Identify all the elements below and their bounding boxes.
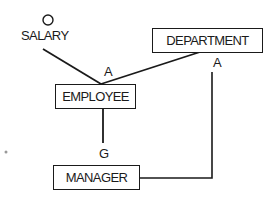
salary-attribute-circle-icon [43, 15, 53, 25]
department-link-label: A [213, 56, 222, 69]
salary-label: SALARY [21, 29, 68, 42]
employee-entity: EMPLOYEE [55, 84, 136, 109]
department-entity: DEPARTMENT [152, 28, 263, 53]
generalization-label: G [99, 147, 109, 160]
salary-employee-line [43, 49, 101, 84]
department-label: DEPARTMENT [166, 33, 248, 48]
manager-entity: MANAGER [53, 165, 140, 190]
manager-label: MANAGER [66, 170, 128, 185]
department-employee-line [101, 52, 200, 84]
scan-artifact [5, 151, 8, 154]
employee-link-label: A [104, 65, 113, 78]
employee-label: EMPLOYEE [62, 89, 129, 104]
manager-department-line [139, 72, 212, 178]
